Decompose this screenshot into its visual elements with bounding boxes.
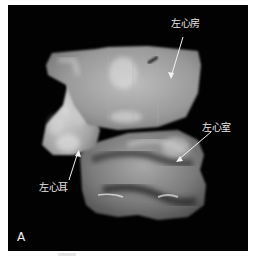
- panel-letter: A: [17, 231, 25, 243]
- ventricle-region: [80, 130, 206, 220]
- label-left-ventricle: 左心室: [202, 123, 231, 133]
- figure-panel: 左心房 左心室 左心耳 A: [8, 5, 248, 251]
- caption-fragment: [58, 253, 76, 256]
- label-left-atrial-appendage: 左心耳: [39, 183, 68, 193]
- label-left-atrium: 左心房: [171, 19, 200, 29]
